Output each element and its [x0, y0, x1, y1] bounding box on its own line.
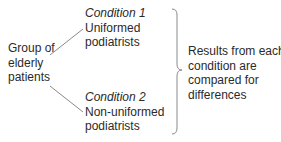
- condition-1-desc-line-1: Uniformed: [85, 21, 146, 36]
- condition-2-desc-line-1: Non-uniformed: [85, 105, 164, 120]
- condition-2-label: Condition 2: [85, 90, 164, 105]
- condition-1-label: Condition 1: [85, 6, 146, 21]
- outcome-line-4: differences: [188, 88, 281, 103]
- source-line-2: elderly: [8, 56, 55, 71]
- outcome-line-2: condition are: [188, 59, 281, 74]
- source-line-1: Group of: [8, 41, 55, 56]
- source-line-3: patients: [8, 70, 55, 85]
- connector-to-condition-2: [50, 86, 83, 112]
- condition-2-block: Condition 2 Non-uniformed podiatrists: [85, 90, 164, 134]
- outcome-text: Results from each condition are compared…: [188, 44, 281, 102]
- condition-1-desc-line-2: podiatrists: [85, 35, 146, 50]
- condition-1-block: Condition 1 Uniformed podiatrists: [85, 6, 146, 50]
- outcome-line-3: compared for: [188, 73, 281, 88]
- right-curly-brace: [172, 9, 182, 134]
- source-group-label: Group of elderly patients: [8, 41, 55, 85]
- condition-2-desc-line-2: podiatrists: [85, 119, 164, 134]
- outcome-line-1: Results from each: [188, 44, 281, 59]
